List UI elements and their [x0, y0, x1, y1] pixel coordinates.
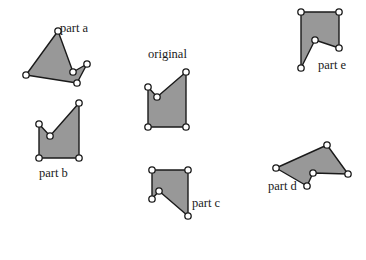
shape-group-part-c — [149, 167, 191, 219]
polygon-part-b — [39, 103, 79, 158]
shape-group-part-a — [23, 28, 90, 86]
vertex-part-b-0 — [36, 121, 42, 127]
vertex-part-c-1 — [185, 167, 191, 173]
vertex-part-b-4 — [36, 155, 42, 161]
label-part-b: part b — [39, 167, 68, 180]
vertex-original-4 — [145, 124, 151, 130]
vertex-part-d-4 — [304, 183, 310, 189]
polygon-original — [148, 72, 186, 127]
label-part-a: part a — [60, 22, 88, 35]
shapes-svg — [0, 0, 366, 260]
polygon-figure-canvas: original part a part b part c part d par… — [0, 0, 366, 260]
vertex-original-3 — [183, 124, 189, 130]
vertex-part-a-3 — [74, 80, 80, 86]
vertex-part-d-0 — [273, 165, 279, 171]
vertex-part-d-3 — [310, 170, 316, 176]
vertex-part-e-4 — [298, 65, 304, 71]
shape-group-original — [145, 69, 189, 130]
vertex-part-b-2 — [76, 100, 82, 106]
vertex-part-a-1 — [70, 69, 76, 75]
vertex-part-b-3 — [76, 155, 82, 161]
vertex-part-a-4 — [23, 72, 29, 78]
label-original: original — [148, 48, 187, 61]
vertex-part-d-1 — [324, 142, 330, 148]
vertex-part-e-0 — [298, 9, 304, 15]
label-part-d: part d — [268, 180, 297, 193]
vertex-original-0 — [145, 84, 151, 90]
vertex-part-e-3 — [312, 37, 318, 43]
vertex-part-e-1 — [336, 9, 342, 15]
vertex-part-e-2 — [336, 45, 342, 51]
vertex-part-a-2 — [84, 61, 90, 67]
vertex-part-d-2 — [345, 171, 351, 177]
label-part-e: part e — [318, 59, 346, 72]
vertex-original-1 — [154, 94, 160, 100]
vertex-part-b-1 — [47, 133, 53, 139]
label-part-c: part c — [192, 197, 220, 210]
vertex-original-2 — [183, 69, 189, 75]
shape-group-part-b — [36, 100, 82, 161]
vertex-part-c-2 — [185, 213, 191, 219]
vertex-part-c-4 — [149, 196, 155, 202]
vertex-part-c-0 — [149, 167, 155, 173]
polygon-part-a — [26, 31, 87, 83]
vertex-part-c-3 — [156, 188, 162, 194]
